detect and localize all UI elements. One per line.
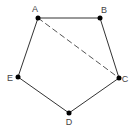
label-E: E — [7, 73, 13, 83]
label-D: D — [66, 117, 73, 127]
label-A: A — [32, 4, 38, 14]
vertex-B — [98, 16, 103, 21]
edge-CD — [69, 78, 119, 113]
edges — [18, 18, 119, 113]
pentagon-diagram: A B C D E — [0, 0, 136, 129]
vertices — [16, 16, 122, 116]
label-B: B — [101, 5, 107, 15]
edge-EA — [18, 18, 38, 77]
vertex-C — [117, 76, 122, 81]
edge-BC — [100, 18, 119, 78]
vertex-A — [36, 16, 41, 21]
vertex-D — [67, 111, 72, 116]
label-C: C — [122, 74, 129, 84]
vertex-E — [16, 75, 21, 80]
edge-DE — [18, 77, 69, 113]
diagonal-AC-dashed — [38, 18, 119, 78]
labels: A B C D E — [7, 4, 129, 127]
